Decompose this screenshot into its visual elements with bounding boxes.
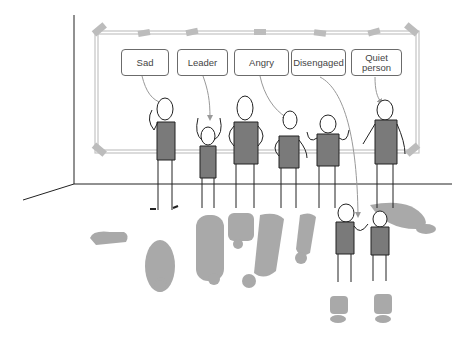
label-arrows: [142, 76, 381, 215]
label-quiet-person: Quiet person: [351, 49, 402, 76]
label-sad: Sad: [121, 49, 169, 76]
label-leader: Leader: [177, 49, 228, 76]
label-disengaged: Disengaged: [291, 49, 346, 76]
team-dynamics-illustration: Sad Leader Angry Disengaged Quiet person: [0, 0, 471, 341]
label-angry: Angry: [234, 49, 289, 76]
